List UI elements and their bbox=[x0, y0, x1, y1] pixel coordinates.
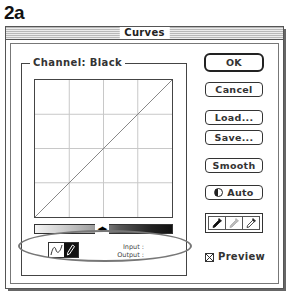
half-circle-icon bbox=[214, 188, 223, 197]
preview-label: Preview bbox=[218, 251, 265, 263]
ok-button[interactable]: OK bbox=[204, 53, 264, 72]
preview-option[interactable]: Preview bbox=[205, 251, 265, 263]
cancel-button[interactable]: Cancel bbox=[205, 82, 263, 97]
preview-checkbox[interactable] bbox=[205, 253, 214, 262]
smooth-button[interactable]: Smooth bbox=[205, 158, 263, 173]
curves-dialog: Curves Channel: Black ◀▶ bbox=[5, 26, 284, 289]
highlight-ellipse-annotation bbox=[18, 230, 192, 262]
window-title: Curves bbox=[119, 27, 169, 39]
curve-grid-svg bbox=[35, 80, 172, 217]
curves-graph[interactable] bbox=[34, 79, 173, 218]
black-point-eyedropper[interactable] bbox=[209, 217, 226, 229]
checkmark-x-icon bbox=[206, 254, 213, 261]
figure-label: 2a bbox=[4, 2, 24, 24]
save-button[interactable]: Save... bbox=[205, 130, 263, 145]
eyedropper-group bbox=[205, 213, 263, 233]
eyedropper-gray-icon bbox=[228, 217, 240, 229]
auto-label: Auto bbox=[227, 187, 253, 198]
gray-point-eyedropper[interactable] bbox=[226, 217, 243, 229]
auto-button[interactable]: Auto bbox=[205, 185, 263, 200]
load-button[interactable]: Load... bbox=[205, 110, 263, 125]
eyedropper-white-icon bbox=[245, 217, 257, 229]
eyedropper-black-icon bbox=[211, 217, 223, 229]
title-bar[interactable]: Curves bbox=[6, 27, 283, 40]
white-point-eyedropper[interactable] bbox=[243, 217, 259, 229]
channel-label[interactable]: Channel: Black bbox=[30, 57, 125, 69]
